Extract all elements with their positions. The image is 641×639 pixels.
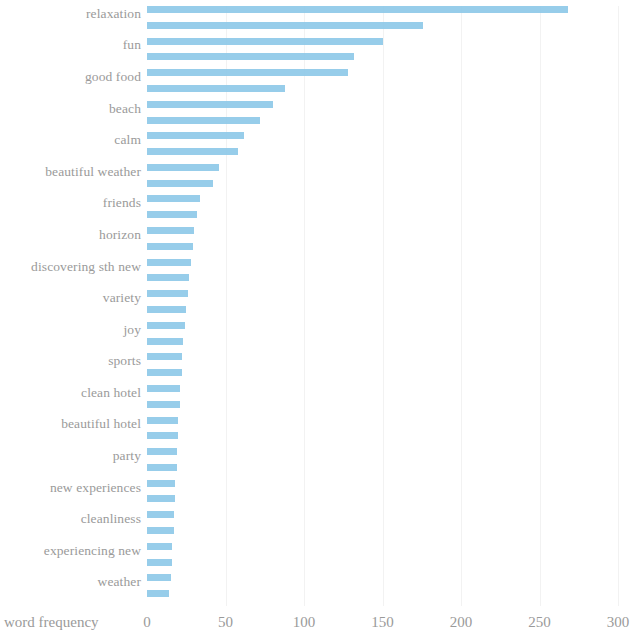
bar[interactable] [147,6,568,13]
bar[interactable] [147,448,177,455]
bar[interactable] [147,53,354,60]
bar-row [147,559,172,568]
bar-row [147,464,177,473]
bar-row [147,290,188,299]
bar[interactable] [147,290,188,297]
bar-row [147,480,175,489]
bar-row [147,53,354,62]
bar[interactable] [147,338,183,345]
bar[interactable] [147,574,171,581]
y-axis-label: party [0,449,141,463]
y-axis-category-labels: relaxationfungood foodbeachcalmbeautiful… [0,6,141,606]
bar[interactable] [147,559,172,566]
bar-row [147,148,238,157]
bar[interactable] [147,85,285,92]
bar[interactable] [147,527,174,534]
bar-row [147,306,186,315]
bar[interactable] [147,101,273,108]
bar-row [147,543,172,552]
bar-row [147,164,219,173]
x-axis-tick-label: 300 [607,612,630,632]
bar[interactable] [147,417,178,424]
bar[interactable] [147,543,172,550]
y-axis-label: relaxation [0,7,141,21]
bar[interactable] [147,148,238,155]
bar-row [147,38,383,47]
bar[interactable] [147,117,260,124]
y-axis-label: good food [0,70,141,84]
y-axis-label: variety [0,291,141,305]
bar-row [147,195,200,204]
y-axis-label: experiencing new [0,544,141,558]
bar-row [147,448,177,457]
x-axis-tick-label: 250 [528,612,551,632]
x-axis-tick-label: 150 [371,612,394,632]
y-axis-label: cleanliness [0,512,141,526]
bar[interactable] [147,385,180,392]
bar[interactable] [147,22,423,29]
bar-row [147,527,174,536]
bar[interactable] [147,259,191,266]
bar[interactable] [147,322,185,329]
bar[interactable] [147,38,383,45]
y-axis-label: beach [0,102,141,116]
gridline [226,6,227,606]
bar[interactable] [147,495,175,502]
bar[interactable] [147,401,180,408]
y-axis-label: calm [0,133,141,147]
word-frequency-bar-chart: relaxationfungood foodbeachcalmbeautiful… [0,0,641,639]
bar[interactable] [147,69,348,76]
bar[interactable] [147,511,174,518]
bar-row [147,6,568,15]
bar[interactable] [147,132,244,139]
bar-row [147,259,191,268]
y-axis-label: horizon [0,228,141,242]
bar-row [147,401,180,410]
bar-row [147,590,169,599]
y-axis-label: beautiful hotel [0,417,141,431]
bar[interactable] [147,590,169,597]
bar-row [147,132,244,141]
y-axis-label: new experiences [0,481,141,495]
bar-row [147,243,193,252]
x-axis-tick-label: 0 [143,612,151,632]
gridline [618,6,619,606]
bar[interactable] [147,180,213,187]
bar[interactable] [147,306,186,313]
y-axis-label: discovering sth new [0,260,141,274]
bar-row [147,511,174,520]
bar-row [147,353,182,362]
bar-row [147,22,423,31]
y-axis-label: joy [0,323,141,337]
bar[interactable] [147,432,178,439]
bar-row [147,180,213,189]
y-axis-label: weather [0,575,141,589]
bar[interactable] [147,211,197,218]
bar[interactable] [147,274,189,281]
bar[interactable] [147,195,200,202]
bar-row [147,322,185,331]
y-axis-label: beautiful weather [0,165,141,179]
bar-row [147,385,180,394]
bar[interactable] [147,243,193,250]
bar-row [147,227,194,236]
bar[interactable] [147,480,175,487]
x-axis-tick-label: 200 [450,612,473,632]
gridline [461,6,462,606]
bar-row [147,574,171,583]
bar[interactable] [147,369,182,376]
y-axis-label: fun [0,38,141,52]
bar[interactable] [147,227,194,234]
bar[interactable] [147,464,177,471]
plot-area [147,6,618,606]
bar-row [147,338,183,347]
bar[interactable] [147,164,219,171]
y-axis-label: clean hotel [0,386,141,400]
gridline [540,6,541,606]
bar-row [147,117,260,126]
bar[interactable] [147,353,182,360]
bar-row [147,417,178,426]
x-axis-title: word frequency [4,612,99,632]
bar-row [147,85,285,94]
y-axis-label: sports [0,354,141,368]
